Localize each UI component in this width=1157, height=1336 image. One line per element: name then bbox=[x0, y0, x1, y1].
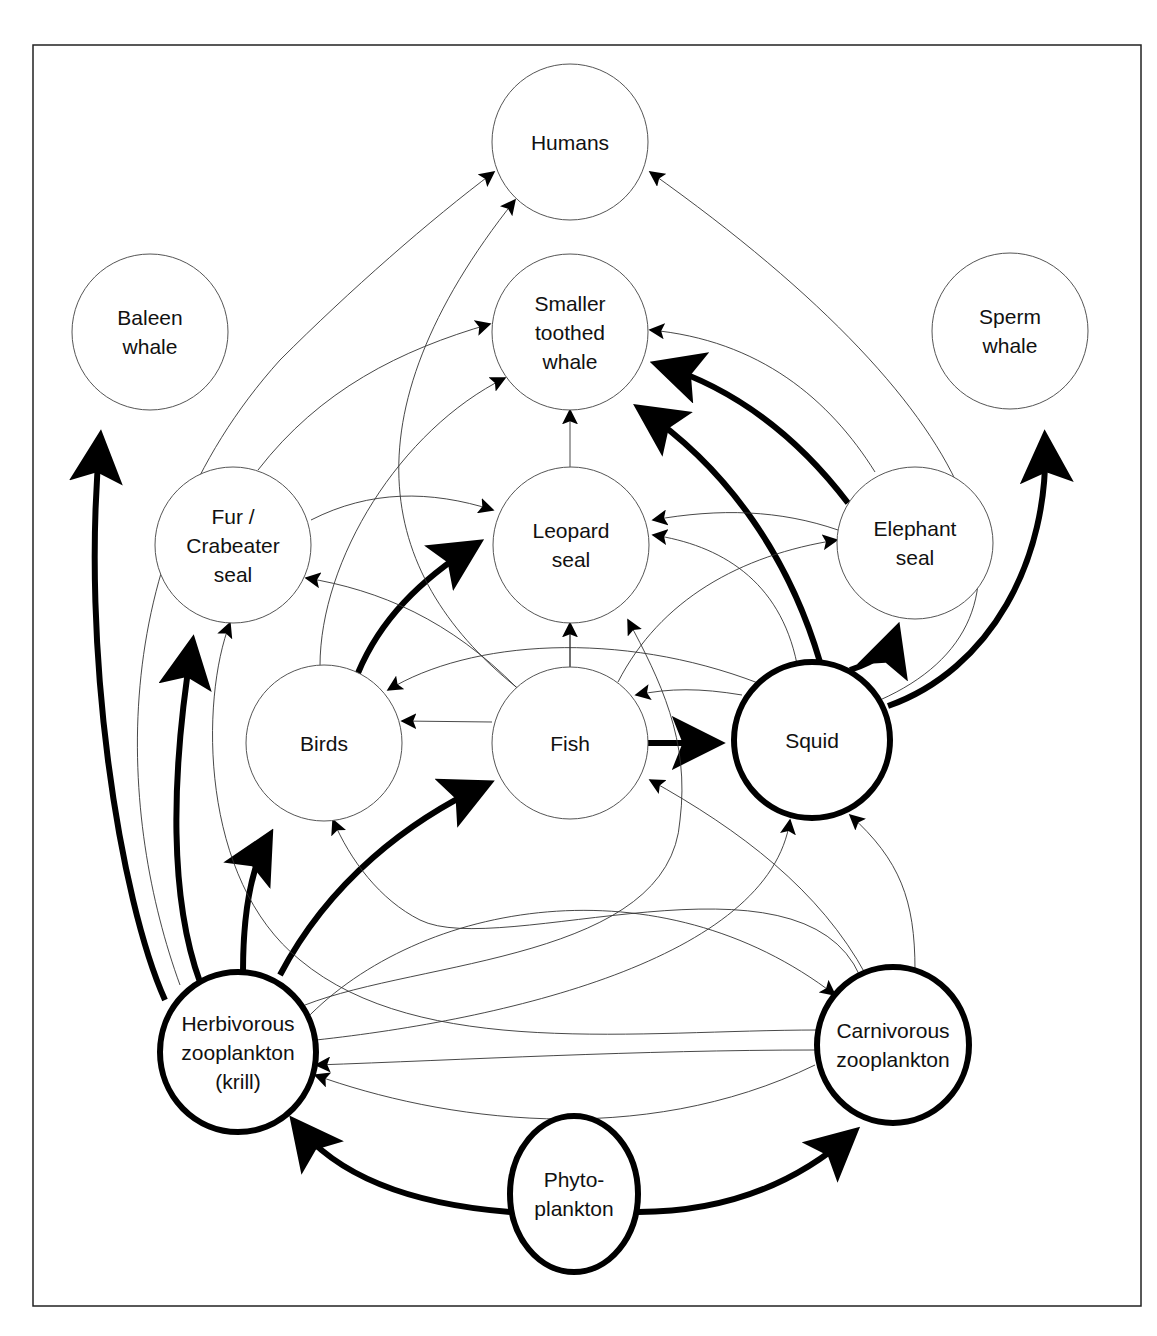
node-label-line: Sperm bbox=[979, 302, 1041, 331]
edge-birds-to-leopard bbox=[358, 545, 475, 673]
node-label-line: Baleen bbox=[117, 303, 182, 332]
node-label-line: toothed bbox=[534, 318, 605, 347]
node-label-line: seal bbox=[532, 545, 609, 574]
node-label-line: whale bbox=[534, 347, 605, 376]
node-label-toothed: Smallertoothedwhale bbox=[534, 289, 605, 376]
node-label-fish: Fish bbox=[550, 729, 590, 758]
node-label-squid: Squid bbox=[785, 726, 839, 755]
node-label-line: seal bbox=[874, 543, 957, 572]
node-label-leopard: Leopardseal bbox=[532, 516, 609, 574]
node-label-line: zooplankton bbox=[836, 1045, 949, 1074]
edge-herb-to-birds bbox=[243, 838, 268, 972]
edge-squid-to-elephant bbox=[850, 632, 896, 670]
node-label-fur: Fur /Crabeaterseal bbox=[186, 502, 279, 589]
node-label-phyto: Phyto-plankton bbox=[534, 1165, 613, 1223]
node-label-line: (krill) bbox=[181, 1067, 294, 1096]
edge-carn-to-herb bbox=[315, 1065, 815, 1119]
node-label-baleen: Baleenwhale bbox=[117, 303, 182, 361]
edge-phyto-to-herb bbox=[296, 1124, 510, 1212]
node-label-line: Smaller bbox=[534, 289, 605, 318]
node-label-line: Herbivorous bbox=[181, 1009, 294, 1038]
node-label-line: whale bbox=[979, 331, 1041, 360]
node-label-line: Fur / bbox=[186, 502, 279, 531]
node-label-line: Birds bbox=[300, 729, 348, 758]
edge-carn-to-squid bbox=[850, 815, 915, 970]
node-label-sperm: Spermwhale bbox=[979, 302, 1041, 360]
node-label-line: zooplankton bbox=[181, 1038, 294, 1067]
edge-herb-to-fur bbox=[176, 645, 200, 982]
edge-squid-to-humans bbox=[650, 172, 979, 700]
node-label-line: Leopard bbox=[532, 516, 609, 545]
edge-carn-to-herb bbox=[316, 1050, 815, 1065]
edge-carn-to-birds bbox=[333, 820, 860, 976]
edge-squid-to-toothed bbox=[642, 410, 820, 662]
node-label-line: Elephant bbox=[874, 514, 957, 543]
node-label-line: Crabeater bbox=[186, 531, 279, 560]
node-label-line: Fish bbox=[550, 729, 590, 758]
node-label-line: whale bbox=[117, 332, 182, 361]
food-web-diagram: HumansBaleenwhaleSmallertoothedwhaleSper… bbox=[0, 0, 1157, 1336]
edge-herb-to-carn bbox=[305, 910, 835, 1020]
node-label-line: seal bbox=[186, 560, 279, 589]
node-label-birds: Birds bbox=[300, 729, 348, 758]
edge-fish-to-birds bbox=[402, 721, 492, 722]
node-label-line: plankton bbox=[534, 1194, 613, 1223]
edge-elephant-to-toothed bbox=[660, 365, 848, 503]
node-label-elephant: Elephantseal bbox=[874, 514, 957, 572]
edge-birds-to-toothed bbox=[320, 378, 505, 666]
node-label-carn: Carnivorouszooplankton bbox=[836, 1016, 949, 1074]
node-label-line: Phyto- bbox=[534, 1165, 613, 1194]
node-label-humans: Humans bbox=[531, 128, 609, 157]
edge-phyto-to-carn bbox=[638, 1134, 852, 1212]
node-label-line: Humans bbox=[531, 128, 609, 157]
edge-elephant-to-toothed bbox=[650, 330, 875, 472]
node-label-line: Squid bbox=[785, 726, 839, 755]
node-label-line: Carnivorous bbox=[836, 1016, 949, 1045]
diagram-canvas bbox=[0, 0, 1157, 1336]
edge-squid-to-fish bbox=[636, 690, 742, 695]
node-label-herb: Herbivorouszooplankton(krill) bbox=[181, 1009, 294, 1096]
edge-fur-to-toothed bbox=[258, 324, 490, 470]
edge-herb-to-baleen bbox=[95, 440, 165, 1000]
